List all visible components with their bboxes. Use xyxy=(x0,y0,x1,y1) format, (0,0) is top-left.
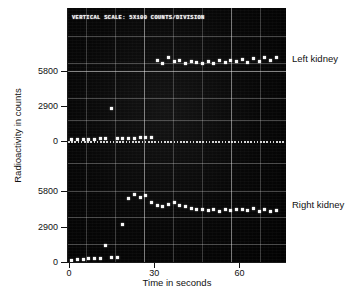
y-axis-title: Radioactivity in counts xyxy=(12,61,23,211)
data-point xyxy=(184,62,187,65)
vertical-scale-title: VERTICAL SCALE: 5X100 COUNTS/DIVISION xyxy=(68,13,286,24)
data-point xyxy=(110,256,113,259)
data-point xyxy=(263,56,266,59)
gridline-v xyxy=(86,8,87,263)
series-label-right-kidney: Right kidney xyxy=(292,199,344,210)
data-point xyxy=(167,203,170,206)
data-point xyxy=(212,62,215,65)
data-point xyxy=(218,210,221,213)
data-point xyxy=(70,138,73,141)
data-point xyxy=(178,59,181,62)
data-point xyxy=(207,209,210,212)
data-point xyxy=(82,258,85,261)
data-point xyxy=(258,60,261,63)
data-point xyxy=(104,137,107,140)
data-point xyxy=(167,56,170,59)
gridline-h xyxy=(68,244,286,245)
y-axis-line xyxy=(67,8,68,263)
y-tick-mark xyxy=(61,141,67,142)
data-point xyxy=(224,208,227,211)
data-point xyxy=(144,194,147,197)
data-point xyxy=(195,208,198,211)
vertical-scale-title-text: VERTICAL SCALE: 5X100 COUNTS/DIVISION xyxy=(72,13,205,24)
data-point xyxy=(190,60,193,63)
gridline-v xyxy=(173,8,174,263)
data-point xyxy=(201,62,204,65)
x-axis-title: Time in seconds xyxy=(68,277,286,288)
data-point xyxy=(139,196,142,199)
gridline-h xyxy=(68,217,286,218)
gridline-h xyxy=(68,98,286,99)
gridline-h xyxy=(68,36,286,37)
gridline-h xyxy=(68,163,286,164)
data-point xyxy=(139,136,142,139)
data-point xyxy=(235,60,238,63)
data-point xyxy=(76,138,79,141)
gridline-h xyxy=(68,63,286,64)
panel-background-texture xyxy=(68,8,286,263)
data-point xyxy=(144,136,147,139)
baseline-upper xyxy=(68,141,286,143)
y-tick-mark xyxy=(61,106,67,107)
data-point xyxy=(82,138,85,141)
data-point xyxy=(224,61,227,64)
plot-panel: VERTICAL SCALE: 5X100 COUNTS/DIVISION xyxy=(68,8,286,263)
gridline-v xyxy=(202,8,203,263)
data-point xyxy=(269,59,272,62)
data-point xyxy=(173,60,176,63)
y-tick-label: 2900 xyxy=(38,223,58,232)
data-point xyxy=(246,61,249,64)
data-point xyxy=(133,137,136,140)
data-point xyxy=(207,60,210,63)
data-point xyxy=(127,197,130,200)
series-label-left-kidney: Left kidney xyxy=(292,53,338,64)
data-point xyxy=(76,258,79,261)
y-tick-label: 5800 xyxy=(38,67,58,76)
data-point xyxy=(190,207,193,210)
data-point xyxy=(184,205,187,208)
data-point xyxy=(241,58,244,61)
data-point xyxy=(150,201,153,204)
data-point xyxy=(201,208,204,211)
data-point xyxy=(218,59,221,62)
data-point xyxy=(99,257,102,260)
data-point xyxy=(87,138,90,141)
data-point xyxy=(246,209,249,212)
data-point xyxy=(161,205,164,208)
data-point xyxy=(110,107,113,110)
data-point xyxy=(121,137,124,140)
data-point xyxy=(178,204,181,207)
data-point xyxy=(229,59,232,62)
data-point xyxy=(93,257,96,260)
data-point xyxy=(121,223,124,226)
data-point xyxy=(99,137,102,140)
data-point xyxy=(241,208,244,211)
gridline-v xyxy=(231,8,232,263)
data-point xyxy=(156,204,159,207)
chart-screenshot: VERTICAL SCALE: 5X100 COUNTS/DIVISION 02… xyxy=(0,0,363,296)
data-point xyxy=(104,244,107,247)
data-point xyxy=(87,257,90,260)
gridline-v xyxy=(260,8,261,263)
data-point xyxy=(173,201,176,204)
data-point xyxy=(258,210,261,213)
data-point xyxy=(150,136,153,139)
gridline-v xyxy=(115,8,116,263)
data-point xyxy=(161,62,164,65)
data-point xyxy=(235,208,238,211)
y-tick-mark xyxy=(61,227,67,228)
data-point xyxy=(195,61,198,64)
data-point xyxy=(133,193,136,196)
data-point xyxy=(93,138,96,141)
data-point xyxy=(229,209,232,212)
y-tick-mark xyxy=(61,71,67,72)
y-axis-ticks: 029005800029005800 xyxy=(0,0,67,296)
y-tick-label: 2900 xyxy=(38,102,58,111)
data-point xyxy=(252,57,255,60)
data-point xyxy=(212,208,215,211)
gridline-h xyxy=(68,120,286,121)
data-point xyxy=(252,207,255,210)
y-tick-label: 5800 xyxy=(38,187,58,196)
y-tick-mark xyxy=(61,191,67,192)
data-point xyxy=(116,256,119,259)
